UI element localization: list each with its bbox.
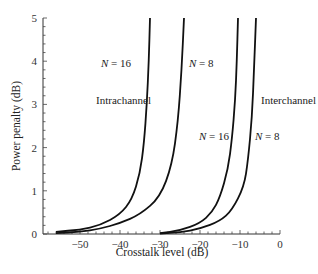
series-line [160, 18, 256, 234]
x-axis-title: Crosstalk level (dB) [116, 246, 209, 259]
annotation-label: N = 16 [100, 57, 132, 69]
series-line [160, 18, 238, 233]
annotation-label: N = 8 [254, 130, 280, 142]
x-tick-label: −50 [71, 238, 89, 250]
annotation-label: N = 16 [198, 130, 230, 142]
series-line [56, 18, 184, 233]
y-tick-label: 5 [32, 12, 38, 24]
curves [56, 18, 256, 234]
annotation-label: Intrachannel [96, 94, 151, 106]
chart: 012345−50−40−30−20−100 N = 16N = 8Intrac… [0, 0, 318, 274]
y-tick-label: 2 [32, 142, 38, 154]
x-tick-label: −10 [231, 238, 249, 250]
y-tick-label: 1 [32, 185, 38, 197]
y-tick-label: 4 [32, 55, 38, 67]
annotation-label: Interchannel [261, 94, 316, 106]
y-tick-label: 0 [32, 228, 38, 240]
x-tick-label: 0 [277, 238, 283, 250]
axes: 012345−50−40−30−20−100 [32, 12, 284, 250]
annotation-label: N = 8 [188, 57, 214, 69]
y-axis-title: Power penalty (dB) [10, 81, 23, 171]
series-line [56, 18, 150, 232]
annotations: N = 16N = 8IntrachannelInterchannelN = 1… [96, 57, 316, 142]
y-tick-label: 3 [32, 98, 38, 110]
